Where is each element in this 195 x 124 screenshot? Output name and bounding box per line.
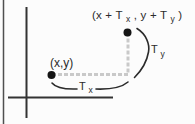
translated-label-sub-y: y	[170, 14, 175, 24]
translation-diagram: (x,y) (x + T x , y + T y ) T x T y	[0, 0, 195, 124]
translated-label-part2: , y + T	[134, 9, 167, 21]
tx-label-base: T	[79, 80, 86, 92]
origin-point-marker	[48, 71, 56, 79]
origin-point-label: (x,y)	[50, 56, 73, 70]
translated-label-part3: )	[178, 9, 182, 21]
translated-label-part1: (x + T	[92, 9, 123, 21]
translated-label-sub-x: x	[126, 14, 131, 24]
ty-label-base: T	[151, 43, 158, 55]
translation-diagram-canvas: (x,y) (x + T x , y + T y ) T x T y	[0, 0, 195, 124]
translated-point-marker	[124, 29, 132, 37]
